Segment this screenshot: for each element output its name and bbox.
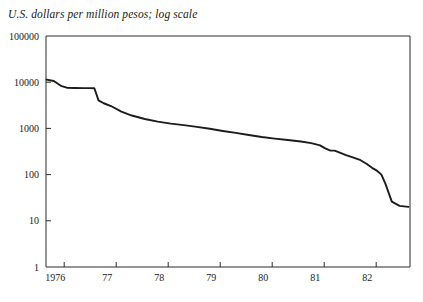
x-axis-tick-labels: 1976777879808182	[45, 272, 372, 283]
y-axis-tick-label-0: 100000	[9, 31, 39, 42]
x-axis-tick-label-3: 79	[206, 272, 216, 283]
x-axis-tick-label-6: 82	[362, 272, 372, 283]
data-series-group	[47, 80, 409, 207]
x-axis-tick-label-2: 78	[154, 272, 164, 283]
plot-frame	[46, 36, 410, 267]
x-axis-tick-label-5: 81	[310, 272, 320, 283]
data-series-line-0	[47, 80, 409, 207]
chart-page: U.S. dollars per million pesos; log scal…	[0, 0, 423, 302]
x-axis-tick-label-4: 80	[258, 272, 268, 283]
y-axis-tick-marks	[46, 82, 51, 221]
y-axis-tick-label-5: 1	[34, 262, 39, 273]
x-axis-tick-label-1: 77	[102, 272, 112, 283]
y-axis-tick-label-3: 100	[24, 169, 39, 180]
x-axis-tick-label-0: 1976	[45, 272, 65, 283]
y-axis-tick-labels: 100000100001000100101	[9, 31, 39, 273]
y-axis-tick-label-4: 10	[29, 215, 39, 226]
y-axis-tick-label-2: 1000	[19, 123, 39, 134]
chart-plot-area: 100000100001000100101 1976777879808182	[0, 0, 423, 302]
y-axis-tick-label-1: 10000	[14, 77, 39, 88]
x-axis-tick-marks	[64, 262, 376, 267]
